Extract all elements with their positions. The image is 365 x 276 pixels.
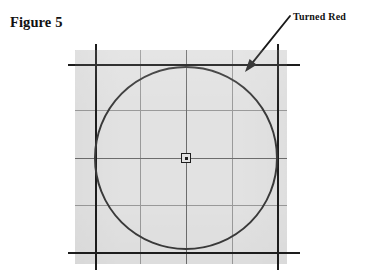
figure-container: Figure 5 Turned Red — [0, 0, 365, 276]
plot-image — [0, 0, 365, 276]
annotation-label: Turned Red — [293, 11, 346, 22]
center-marker-icon — [182, 154, 191, 163]
